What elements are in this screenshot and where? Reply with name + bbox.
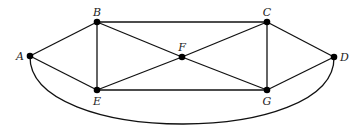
edges-layer [30,22,334,124]
edge-b-f [97,22,182,57]
node-label-c: C [263,6,272,19]
node-d [331,54,338,61]
node-label-g: G [263,95,272,108]
node-g [264,87,271,94]
node-label-d: D [339,51,349,64]
node-label-e: E [92,95,101,108]
nodes-layer [27,19,338,94]
edge-a-b [30,22,97,56]
graph-diagram: ABCDEFG [0,0,360,129]
node-f [179,54,186,61]
edge-a-e [30,56,97,90]
edge-f-g [182,57,267,90]
node-c [264,19,271,26]
edge-e-f [97,57,182,90]
node-e [94,87,101,94]
edge-c-f [182,22,267,57]
node-b [94,19,101,26]
node-label-b: B [92,6,101,19]
edge-c-d [267,22,334,57]
node-label-a: A [15,50,24,63]
node-label-f: F [177,41,186,54]
node-a [27,53,34,60]
